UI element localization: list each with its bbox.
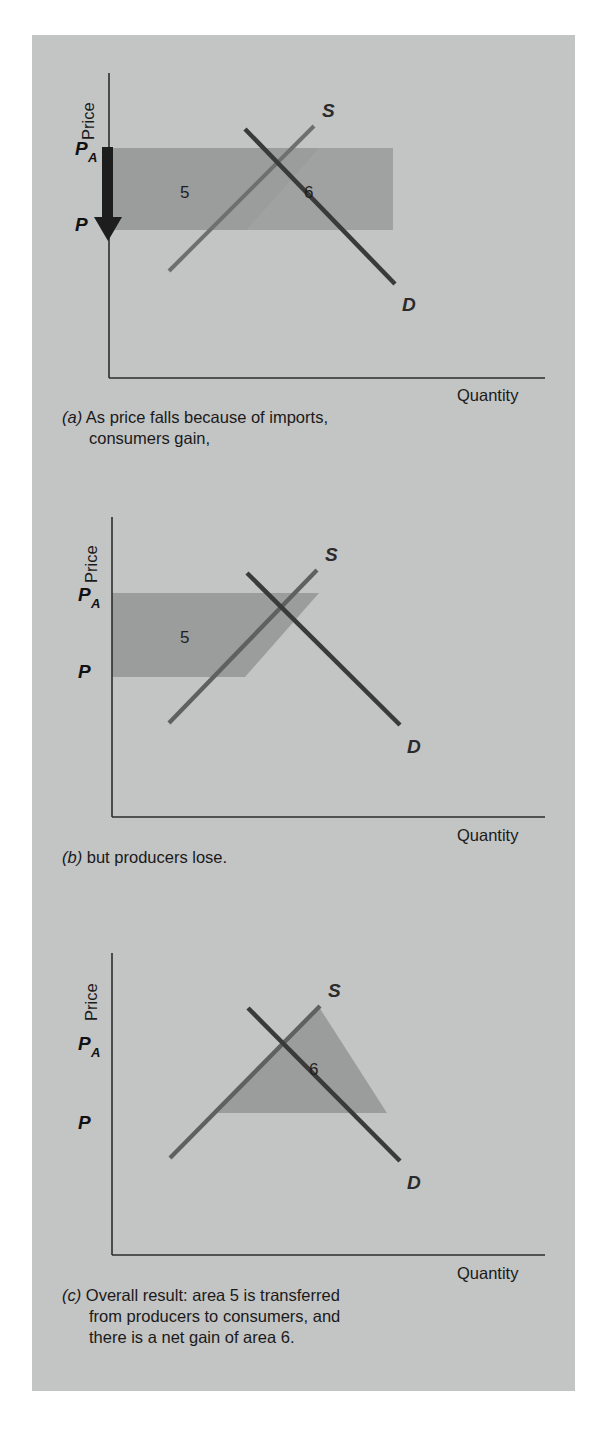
caption-line-a-1: As price falls because of imports,	[86, 408, 328, 426]
chart-a: Price Quantity P A P S D 5 6	[32, 35, 575, 407]
caption-letter-b: (b)	[62, 848, 82, 866]
caption-b: (b) but producers lose.	[32, 847, 575, 868]
caption-letter-c: (c)	[62, 1286, 81, 1304]
x-axis-label-a: Quantity	[457, 386, 519, 404]
chart-c: Price Quantity P A P S D 6	[32, 905, 575, 1295]
figure-c: Price Quantity P A P S D 6 (c) Overall r…	[32, 905, 575, 1391]
caption-c: (c) Overall result: area 5 is transferre…	[32, 1285, 575, 1348]
area-label-6-c: 6	[309, 1060, 318, 1079]
y-axis-label-b: Price	[82, 545, 100, 583]
caption-line-b-1: but producers lose.	[87, 848, 227, 866]
demand-label-a: D	[402, 294, 416, 315]
price-autarky-sub-b: A	[90, 596, 100, 611]
supply-label-c: S	[328, 980, 341, 1001]
caption-line-c-3: there is a net gain of area 6.	[89, 1328, 294, 1346]
supply-label-b: S	[325, 544, 338, 565]
y-axis-label-c: Price	[82, 983, 100, 1021]
area-label-6-a: 6	[304, 183, 313, 202]
figure-b: Price Quantity P A P S D 5 (b) but produ…	[32, 465, 575, 905]
price-world-label-a: P	[75, 214, 88, 235]
x-axis-label-c: Quantity	[457, 1264, 519, 1282]
price-autarky-sub-a: A	[87, 150, 97, 165]
caption-line-c-2: from producers to consumers, and	[89, 1307, 340, 1325]
area-label-5-a: 5	[180, 183, 189, 202]
x-axis-label-b: Quantity	[457, 826, 519, 844]
chart-b: Price Quantity P A P S D 5	[32, 465, 575, 847]
figure-panel: Price Quantity P A P S D 5 6 (a) As pric…	[32, 35, 575, 1391]
price-autarky-label-b: P	[78, 584, 91, 605]
price-world-label-c: P	[78, 1112, 91, 1133]
price-autarky-label-c: P	[78, 1033, 91, 1054]
supply-label-a: S	[322, 100, 335, 121]
caption-line-a-2: consumers gain,	[89, 429, 210, 447]
figure-a: Price Quantity P A P S D 5 6 (a) As pric…	[32, 35, 575, 465]
caption-a: (a) As price falls because of imports, c…	[32, 407, 575, 449]
shaded-area-5-b	[112, 593, 319, 677]
area-label-5-b: 5	[180, 628, 189, 647]
price-autarky-sub-c: A	[90, 1045, 100, 1060]
price-autarky-label-a: P	[75, 138, 88, 159]
price-world-label-b: P	[78, 661, 91, 682]
demand-label-b: D	[407, 736, 421, 757]
demand-label-c: D	[407, 1172, 421, 1193]
caption-line-c-1: Overall result: area 5 is transferred	[86, 1286, 340, 1304]
demand-curve-b	[247, 573, 400, 725]
caption-letter-a: (a)	[62, 408, 82, 426]
page-root: Price Quantity P A P S D 5 6 (a) As pric…	[0, 0, 590, 1434]
y-axis-label-a: Price	[79, 102, 97, 140]
